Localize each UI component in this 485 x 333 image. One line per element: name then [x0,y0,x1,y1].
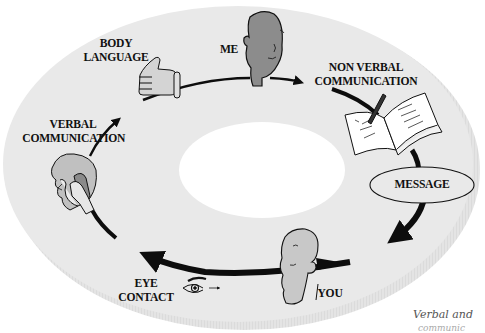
label-line: MESSAGE [386,177,458,191]
label-you: YOU [315,286,346,300]
label-eye-contact: EYE CONTACT [117,276,175,304]
label-non-verbal: NON VERBAL COMMUNICATION [314,60,417,88]
label-line: EYE [117,276,175,290]
label-line: YOU [315,286,346,300]
label-body-language: BODY LANGUAGE [82,36,151,64]
label-me: ME [214,42,243,56]
label-verbal: VERBAL COMMUNICATION [22,117,123,145]
label-line: ME [214,42,243,56]
figure-caption-line2: communic [418,323,465,333]
label-line: BODY [82,36,151,50]
figure-caption: Verbal and [413,308,473,321]
label-line: LANGUAGE [82,50,151,64]
label-line: COMMUNICATION [314,74,417,88]
label-line: COMMUNICATION [22,131,123,145]
label-line: NON VERBAL [314,60,417,74]
label-line: VERBAL [22,117,123,131]
label-line: CONTACT [117,290,175,304]
center-hole [179,122,345,218]
label-message: MESSAGE [386,177,458,191]
